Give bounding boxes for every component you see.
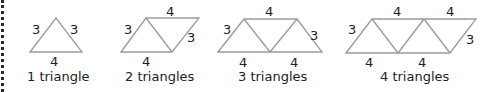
fig3-right-label: 3 — [310, 29, 318, 42]
fig2-caption: 2 triangles — [125, 70, 194, 83]
fig4-top-left-label: 4 — [393, 5, 401, 18]
fig2-bottom-label: 4 — [142, 55, 150, 68]
fig4-bottom-right-label: 4 — [418, 56, 426, 69]
fig4-top-right-label: 4 — [446, 5, 454, 18]
figure-3-trapezoid — [218, 19, 322, 52]
fig3-bottom-right-label: 4 — [290, 56, 298, 69]
fig4-bottom-left-label: 4 — [365, 56, 373, 69]
fig4-left-label: 3 — [348, 23, 356, 36]
fig4-caption: 4 triangles — [380, 70, 449, 83]
fig1-left-label: 3 — [32, 23, 40, 36]
fig1-right-label: 3 — [70, 23, 78, 36]
fig2-top-label: 4 — [166, 5, 174, 18]
fig3-top-label: 4 — [265, 5, 273, 18]
fig3-bottom-left-label: 4 — [239, 56, 247, 69]
fig1-caption: 1 triangle — [27, 70, 90, 83]
fig4-right-label: 3 — [466, 33, 474, 46]
fig3-left-label: 3 — [223, 23, 231, 36]
fig3-caption: 3 triangles — [238, 70, 307, 83]
fig1-bottom-label: 4 — [50, 55, 58, 68]
fig2-right-label: 3 — [187, 31, 195, 44]
fig2-left-label: 3 — [124, 23, 132, 36]
